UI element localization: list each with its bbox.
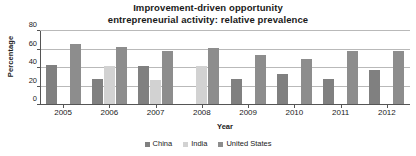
chart-title-line-2: entrepreneurial activity: relative preva… — [0, 14, 416, 26]
chart-title: Improvement-driven opportunity entrepren… — [0, 2, 416, 26]
y-axis-title: Percentage — [6, 27, 15, 87]
legend-label: China — [153, 140, 173, 148]
x-axis-tick-label-2007: 2007 — [133, 108, 179, 118]
y-axis-tick-label: 40 — [29, 58, 37, 65]
bar-chart-figure: Improvement-driven opportunity entrepren… — [0, 0, 416, 156]
x-axis-title: Year — [40, 122, 410, 131]
legend-label: India — [191, 140, 207, 148]
legend-label: United States — [226, 140, 271, 148]
x-axis-tick-label-2005: 2005 — [40, 108, 86, 118]
legend-item-india[interactable]: India — [183, 140, 207, 148]
legend-item-china[interactable]: China — [145, 140, 173, 148]
x-axis-tick-label-2012: 2012 — [364, 108, 410, 118]
x-axis-tick-label-2006: 2006 — [86, 108, 132, 118]
x-axis-tick-label-2010: 2010 — [271, 108, 317, 118]
y-axis-tick-label: 60 — [29, 39, 37, 46]
y-axis-tick-label: 20 — [29, 76, 37, 83]
legend-swatch-icon — [145, 142, 150, 147]
chart-title-line-1: Improvement-driven opportunity — [0, 2, 416, 14]
x-axis-tick-label-2009: 2009 — [225, 108, 271, 118]
x-axis-tick-label-2008: 2008 — [179, 108, 225, 118]
chart-legend: ChinaIndiaUnited States — [0, 140, 416, 148]
x-axis-tick-label-2011: 2011 — [318, 108, 364, 118]
y-axis-tick-label: 80 — [29, 21, 37, 28]
plot-frame — [40, 31, 410, 105]
y-axis-tick-label: 0 — [33, 95, 37, 102]
legend-swatch-icon — [218, 142, 223, 147]
plot-area: 020406080 — [40, 31, 410, 105]
x-axis-tick-labels: 20052006200720082009201020112012 — [40, 108, 410, 118]
legend-swatch-icon — [183, 142, 188, 147]
legend-item-united-states[interactable]: United States — [218, 140, 271, 148]
